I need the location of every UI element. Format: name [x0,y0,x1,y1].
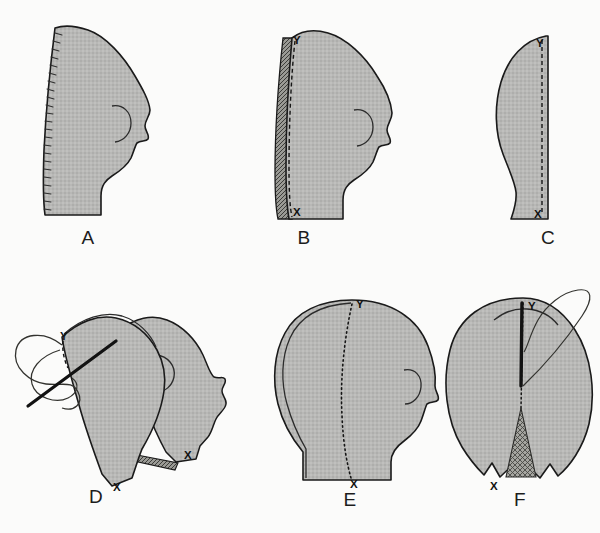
panel-a-label: A [81,227,94,248]
panel-f-mark-x: X [490,480,498,492]
panel-f-needle [521,303,522,386]
panel-b-label: B [297,227,310,248]
panel-c-mark-y: Y [536,37,544,49]
panel-b-mark-y: Y [293,34,301,46]
panel-d-mark-x2: X [184,449,192,461]
panel-c-label: C [541,227,555,248]
panel-c-mark-x: X [534,208,542,220]
panel-d-mark-x1: X [113,481,121,493]
pattern-diagram-svg: A Y X B Y X C [0,0,600,533]
panel-e-label: E [343,489,356,510]
figure-container: A Y X B Y X C [0,0,600,533]
panel-d-mark-y: Y [60,330,68,342]
panel-f-mark-y: Y [528,300,536,312]
panel-e-mark-y: Y [356,298,364,310]
panel-f-label: F [514,489,526,510]
panel-b-mark-x: X [293,206,301,218]
panel-d-label: D [89,486,103,507]
